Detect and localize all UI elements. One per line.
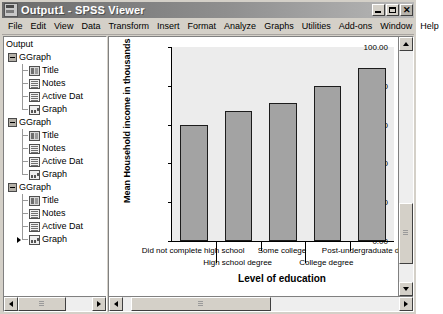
tree-item-graph[interactable]: Graph — [5, 103, 106, 116]
left-arrow-icon — [114, 301, 118, 307]
notes-icon — [29, 209, 40, 219]
menu-view[interactable]: View — [50, 20, 77, 32]
menu-window[interactable]: Window — [376, 20, 416, 32]
down-arrow-icon — [403, 287, 409, 291]
x-axis-tick-label: Post-undergraduate degree — [322, 246, 398, 255]
menu-edit[interactable]: Edit — [27, 20, 51, 32]
outline-scroll-track[interactable] — [18, 297, 92, 311]
viewer-scroll-track[interactable] — [123, 297, 399, 311]
menu-format[interactable]: Format — [184, 20, 221, 32]
tree-connector — [22, 64, 29, 77]
tree-item-label: Graph — [42, 104, 67, 115]
viewer-scroll-left-button[interactable] — [109, 297, 123, 311]
close-button[interactable]: ✕ — [400, 4, 413, 16]
minimize-button[interactable] — [372, 4, 385, 16]
menu-help[interactable]: Help — [416, 20, 443, 32]
viewer-hscrollbar[interactable] — [109, 296, 413, 311]
tree-item-active-dat[interactable]: Active Dat — [5, 155, 106, 168]
tree-item-title[interactable]: Title — [5, 64, 106, 77]
tree-item-graph[interactable]: Graph — [5, 168, 106, 181]
menu-data[interactable]: Data — [77, 20, 104, 32]
menu-transform[interactable]: Transform — [104, 20, 153, 32]
tree-connector — [22, 90, 29, 103]
tree-item-notes[interactable]: Notes — [5, 142, 106, 155]
tree-connector — [22, 194, 29, 207]
menu-file[interactable]: File — [4, 20, 27, 32]
bar[interactable] — [314, 86, 342, 241]
tree-item-label: Title — [42, 130, 59, 141]
tree-item-notes[interactable]: Notes — [5, 77, 106, 90]
viewer-vscroll-thumb[interactable] — [399, 203, 413, 263]
x-axis-tick-label: Did not complete high school — [142, 246, 245, 255]
tree-expander-icon[interactable] — [8, 53, 17, 62]
tree-item-output[interactable]: Output — [5, 38, 106, 51]
tree-connector — [22, 142, 29, 155]
chart-canvas[interactable]: Mean Household income in thousands 0.002… — [109, 37, 398, 296]
menu-graphs[interactable]: Graphs — [260, 20, 298, 32]
bar[interactable] — [225, 111, 253, 241]
right-arrow-icon — [404, 301, 408, 307]
bar-chart[interactable]: Mean Household income in thousands 0.002… — [109, 37, 398, 289]
tree-expander-icon[interactable] — [8, 118, 17, 127]
tree-connector — [22, 168, 29, 181]
viewer-scroll-thumb[interactable] — [131, 297, 271, 311]
x-axis-title: Level of education — [171, 273, 393, 284]
viewer-vscroll-track[interactable] — [399, 51, 413, 282]
right-arrow-icon — [97, 301, 101, 307]
menu-utilities[interactable]: Utilities — [298, 20, 335, 32]
viewer-scroll-down-button[interactable] — [399, 282, 413, 296]
tree-item-title[interactable]: Title — [5, 129, 106, 142]
tree-item-active-dat[interactable]: Active Dat — [5, 220, 106, 233]
bar[interactable] — [269, 103, 297, 241]
viewer-scroll-up-button[interactable] — [399, 37, 413, 51]
outline-tree[interactable]: OutputGGraphTitleNotesActive DatGraphGGr… — [4, 37, 106, 296]
tree-item-label: GGraph — [19, 117, 51, 128]
outline-hscrollbar[interactable] — [4, 296, 106, 311]
tree-item-label: GGraph — [19, 52, 51, 63]
dataset-icon — [29, 222, 40, 232]
viewer-pane: Mean Household income in thousands 0.002… — [108, 36, 414, 312]
maximize-button[interactable] — [386, 4, 399, 16]
menu-analyze[interactable]: Analyze — [220, 20, 260, 32]
y-axis-tick — [168, 202, 172, 203]
notes-icon — [29, 144, 40, 154]
outline-scroll-thumb[interactable] — [18, 297, 66, 311]
tree-expander-icon[interactable] — [8, 183, 17, 192]
tree-item-title[interactable]: Title — [5, 194, 106, 207]
menu-addons[interactable]: Add-ons — [335, 20, 377, 32]
y-axis-tick — [168, 125, 172, 126]
tree-item-ggraph[interactable]: GGraph — [5, 116, 106, 129]
menu-bar: File Edit View Data Transform Insert For… — [2, 18, 414, 35]
title-icon — [29, 66, 40, 76]
outline-pane: OutputGGraphTitleNotesActive DatGraphGGr… — [3, 36, 107, 312]
tree-connector — [22, 77, 29, 90]
spss-viewer-icon — [4, 3, 18, 17]
tree-item-ggraph[interactable]: GGraph — [5, 51, 106, 64]
title-icon — [29, 131, 40, 141]
outline-scroll-right-button[interactable] — [92, 297, 106, 311]
tree-item-label: Active Dat — [42, 221, 83, 232]
tree-item-label: Title — [42, 65, 59, 76]
plot-area: 0.0020.0040.0060.0080.00100.00 — [171, 47, 394, 242]
y-axis-tick-label: 100.00 — [364, 43, 388, 52]
outline-scroll-left-button[interactable] — [4, 297, 18, 311]
bar[interactable] — [358, 68, 386, 241]
menu-insert[interactable]: Insert — [153, 20, 184, 32]
tree-item-active-dat[interactable]: Active Dat — [5, 90, 106, 103]
bar[interactable] — [180, 125, 208, 241]
tree-item-graph[interactable]: Graph — [5, 233, 106, 246]
graph-icon — [29, 170, 40, 180]
dataset-icon — [29, 157, 40, 167]
viewer-scroll-right-button[interactable] — [399, 297, 413, 311]
tree-connector — [22, 233, 29, 246]
tree-item-ggraph[interactable]: GGraph — [5, 181, 106, 194]
tree-item-label: Notes — [42, 78, 66, 89]
y-axis-tick — [168, 86, 172, 87]
left-arrow-icon — [9, 301, 13, 307]
viewer-vscrollbar[interactable] — [398, 37, 413, 296]
tree-item-label: Output — [6, 39, 33, 50]
tree-connector — [22, 129, 29, 142]
window-title: Output1 - SPSS Viewer — [21, 4, 372, 16]
tree-item-notes[interactable]: Notes — [5, 207, 106, 220]
tree-item-label: Graph — [42, 234, 67, 245]
